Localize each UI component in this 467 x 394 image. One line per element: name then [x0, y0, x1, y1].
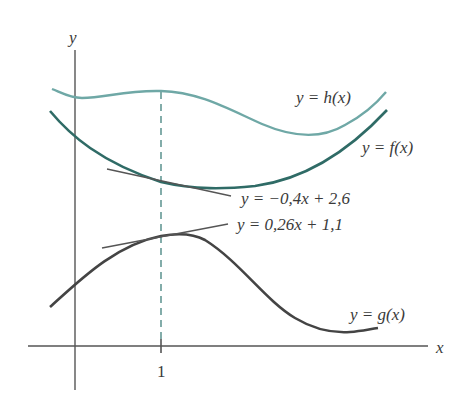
function-graph: y x 1 y = h(x) y = f(x) y = −0,4x + 2,6 …: [0, 0, 467, 394]
label-f: y = f(x): [360, 138, 413, 157]
x-axis-label: x: [435, 338, 444, 357]
tangent-f: [107, 169, 231, 196]
label-f-tangent: y = −0,4x + 2,6: [239, 189, 351, 208]
curve-g: [50, 234, 378, 332]
y-axis-label: y: [67, 28, 77, 47]
label-h: y = h(x): [294, 88, 351, 107]
curve-f: [50, 110, 387, 188]
label-g-tangent: y = 0,26x + 1,1: [235, 215, 343, 234]
tangent-g: [102, 224, 228, 248]
label-g: y = g(x): [348, 305, 405, 324]
x-tick-label: 1: [157, 362, 166, 381]
